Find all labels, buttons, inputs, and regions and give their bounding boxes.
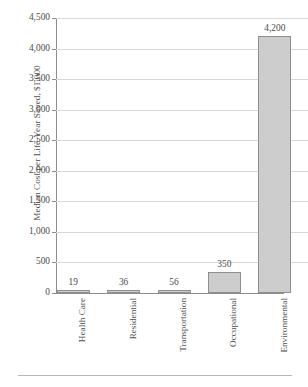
bar-value-label: 36 [95, 278, 152, 287]
x-axis-category-label: Residential [128, 298, 138, 339]
y-axis-tick-label: 0 [4, 288, 50, 297]
gridline [56, 18, 308, 19]
y-axis-tick-mark [52, 232, 56, 233]
y-axis-tick-mark [52, 18, 56, 19]
y-axis-tick-label: 500 [4, 257, 50, 266]
y-axis-tick-label: 4,000 [4, 44, 50, 53]
x-axis-category-label: Transportation [178, 298, 188, 352]
bottom-divider-rule [18, 375, 292, 376]
y-axis-tick-label: 1,500 [4, 196, 50, 205]
bar-value-label: 350 [196, 260, 253, 269]
y-axis-tick-mark [52, 110, 56, 111]
y-axis-tick-label: 2,500 [4, 135, 50, 144]
y-axis-tick-label: 2,000 [4, 166, 50, 175]
x-axis-category-label: Environmental [279, 298, 289, 353]
y-axis-tick-mark [52, 293, 56, 294]
x-axis-category-label: Occupational [228, 298, 238, 347]
y-axis-tick-mark [52, 49, 56, 50]
y-axis-tick-label: 3,500 [4, 74, 50, 83]
y-axis-tick-mark [52, 171, 56, 172]
y-axis-tick-label: 1,000 [4, 227, 50, 236]
y-axis-tick-label: 4,500 [4, 13, 50, 22]
x-axis-category-label: Health Care [77, 298, 87, 342]
y-axis-tick-mark [52, 79, 56, 80]
y-axis-tick-mark [52, 262, 56, 263]
bar-chart-figure: Median Cost per Life-Year Saved, $1,000 … [0, 0, 308, 387]
x-axis-baseline [56, 293, 284, 294]
bar [57, 290, 90, 293]
bar [258, 36, 291, 293]
plot-area [56, 18, 308, 293]
bar [158, 290, 191, 293]
bar [107, 290, 140, 293]
y-axis-tick-mark [52, 140, 56, 141]
bar-value-label: 56 [146, 278, 203, 287]
bar [208, 272, 241, 293]
y-axis-tick-label: 3,000 [4, 105, 50, 114]
bar-value-label: 19 [45, 278, 102, 287]
y-axis-tick-mark [52, 201, 56, 202]
bar-value-label: 4,200 [246, 24, 303, 33]
